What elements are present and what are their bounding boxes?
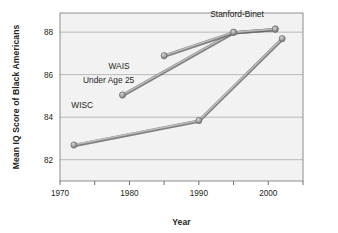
x-tick-label-1980: 1980 (120, 189, 139, 198)
y-tick-label-82: 82 (44, 156, 54, 165)
y-tick-label-84: 84 (44, 113, 54, 122)
data-point (231, 29, 237, 35)
data-point (119, 92, 125, 98)
iq-trend-line-chart: 1970198019902000 82848688 WISCWAISUnder … (0, 0, 338, 233)
x-tick-label-2000: 2000 (259, 189, 278, 198)
x-axis-ticks (60, 181, 303, 185)
data-point (196, 117, 202, 123)
y-axis-title: Mean IQ Score of Black Americans (11, 25, 21, 170)
y-tick-label-88: 88 (44, 28, 54, 37)
series-label-stanford-binet: Stanford-Binet (210, 9, 264, 19)
y-tick-label-86: 86 (44, 71, 54, 80)
x-tick-label-1970: 1970 (51, 189, 70, 198)
data-point (279, 36, 285, 42)
data-point (71, 142, 77, 148)
series-sublabel-under-age-25: Under Age 25 (83, 75, 135, 85)
x-tick-label-1990: 1990 (190, 189, 209, 198)
x-axis-tick-labels: 1970198019902000 (51, 189, 278, 198)
data-point (161, 53, 167, 59)
plot-background (60, 13, 303, 181)
chart-figure: 1970198019902000 82848688 WISCWAISUnder … (0, 0, 338, 233)
series-label-wisc: WISC (71, 100, 93, 110)
y-axis-tick-labels: 82848688 (44, 28, 54, 165)
data-point (272, 26, 278, 32)
series-label-wais: WAIS (108, 61, 130, 71)
x-axis-title: Year (172, 217, 191, 227)
